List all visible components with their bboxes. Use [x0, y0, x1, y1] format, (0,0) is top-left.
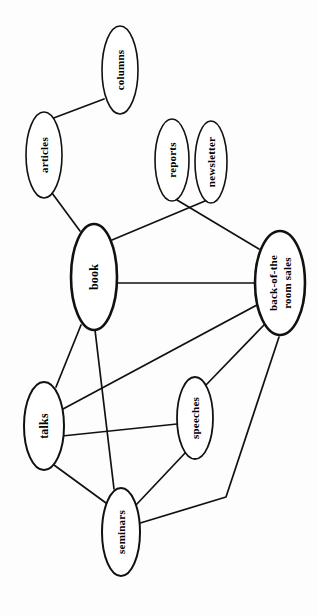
- node-label: newsletter: [205, 137, 217, 187]
- node-label: speeches: [189, 397, 201, 439]
- graph-diagram: columnsarticlesreportsnewsletterbookback…: [0, 0, 318, 615]
- node-label: columns: [114, 49, 126, 90]
- graph-node-talks[interactable]: talks: [24, 382, 64, 470]
- node-label: room sales: [281, 257, 293, 309]
- node-label: book: [87, 264, 101, 290]
- graph-node-reports[interactable]: reports: [155, 119, 189, 201]
- graph-node-columns[interactable]: columns: [102, 26, 138, 114]
- graph-node-speeches[interactable]: speeches: [177, 377, 213, 459]
- graph-canvas: columnsarticlesreportsnewsletterbookback…: [0, 0, 318, 615]
- graph-node-book[interactable]: book: [71, 224, 117, 330]
- node-label: talks: [37, 413, 51, 439]
- node-ellipse: [255, 231, 305, 335]
- node-label: back-of-the: [267, 255, 279, 311]
- node-label: seminars: [115, 510, 127, 554]
- graph-node-articles[interactable]: articles: [26, 112, 62, 198]
- graph-node-newsletter[interactable]: newsletter: [195, 121, 227, 203]
- graph-node-seminars[interactable]: seminars: [102, 488, 140, 576]
- node-label: articles: [38, 137, 50, 173]
- graph-node-back-of-the-room-sales[interactable]: back-of-theroom sales: [255, 231, 305, 335]
- node-label: reports: [166, 142, 178, 178]
